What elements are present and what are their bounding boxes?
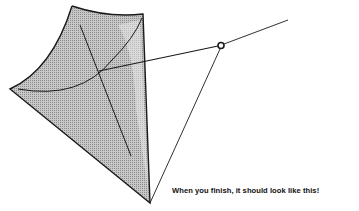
lower-bridle-line bbox=[150, 49, 220, 203]
figure-caption: When you finish, it should look like thi… bbox=[172, 186, 319, 195]
bridle-ring-icon bbox=[218, 43, 224, 49]
flying-string bbox=[224, 20, 288, 44]
kite-illustration bbox=[0, 0, 359, 211]
